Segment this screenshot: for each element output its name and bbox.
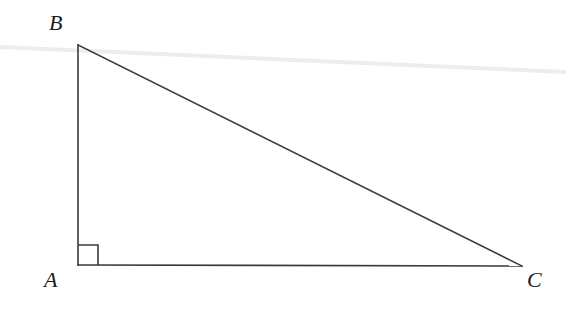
figure-canvas (0, 0, 566, 313)
geometry-figure: A B C (0, 0, 566, 313)
leg-AC-line (78, 265, 522, 266)
vertex-label-a: A (44, 269, 57, 291)
vertex-label-b: B (49, 12, 62, 34)
vertex-label-c: C (527, 269, 542, 291)
